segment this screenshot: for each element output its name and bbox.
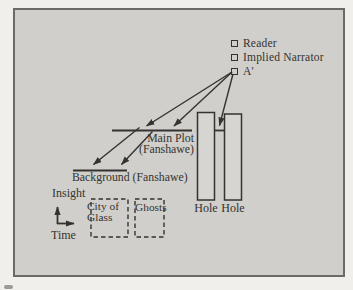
hole-bar-left — [198, 113, 215, 201]
hole-label-right: Hole — [219, 202, 247, 214]
city-of-glass-label-line2: Glass — [87, 212, 119, 223]
background-label: Background (Fanshawe) — [72, 172, 188, 184]
implied-narrator-square-icon — [231, 54, 238, 61]
y-axis-label: Insight — [52, 187, 85, 199]
legend-item-reader: Reader — [231, 36, 324, 50]
legend-item-label: A' — [243, 65, 254, 77]
a-prime-square-icon — [231, 68, 238, 75]
legend-item-implied-narrator: Implied Narrator — [231, 50, 324, 64]
reader-square-icon — [231, 40, 238, 47]
arrow-legend-to-main-plot-left — [147, 72, 233, 126]
page-artifact-mark — [4, 285, 13, 289]
legend-item-label: Implied Narrator — [243, 51, 324, 63]
legend-item-label: Reader — [243, 37, 277, 49]
main-plot-label: Main Plot (Fanshawe) — [134, 133, 194, 156]
hole-bar-right — [225, 114, 242, 200]
legend-item-a-prime: A' — [231, 64, 324, 78]
ghosts-label: Ghosts — [135, 202, 167, 213]
x-axis-label: Time — [51, 229, 76, 241]
city-of-glass-label-line1: City of — [87, 201, 119, 212]
scanned-page: Reader Implied Narrator A' Main Plot (Fa… — [0, 0, 353, 290]
hole-label-left: Hole — [192, 202, 220, 214]
main-plot-label-line2: (Fanshawe) — [134, 144, 194, 155]
city-of-glass-label: City of Glass — [87, 201, 119, 222]
legend: Reader Implied Narrator A' — [231, 36, 324, 78]
arrow-main-plot-to-background-left — [94, 128, 140, 165]
